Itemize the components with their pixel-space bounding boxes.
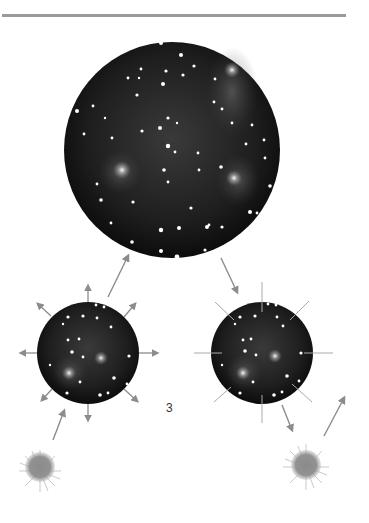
arrow-down-icon [282,405,292,430]
arrow-up-icon [324,398,344,436]
spiral-galaxy-icon [226,170,242,186]
arrow-down-icon [221,258,237,292]
spiral-galaxy-icon [224,62,240,78]
static-star-field [194,282,333,423]
universe-diagram [0,0,369,523]
left-sun [19,450,61,492]
galaxy-icon [113,161,131,179]
panel-number: 3 [166,401,173,415]
large-star-field [64,41,280,259]
expanding-star-field [21,286,157,420]
right-sun [283,444,329,490]
arrow-up-icon [53,411,64,440]
arrow-up-icon [108,256,128,297]
